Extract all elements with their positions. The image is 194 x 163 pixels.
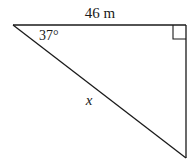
top-side-label: 46 m — [85, 5, 116, 21]
triangle — [13, 25, 186, 158]
right-angle-marker — [173, 25, 186, 39]
triangle-diagram: 46 m 37° x — [0, 0, 194, 163]
angle-label: 37° — [39, 28, 59, 43]
hypotenuse — [13, 25, 186, 158]
hypotenuse-label: x — [85, 92, 93, 108]
